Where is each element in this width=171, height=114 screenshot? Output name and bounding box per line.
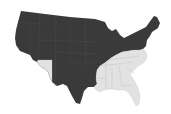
us-map-svg xyxy=(0,0,171,114)
us-map xyxy=(0,0,171,114)
state-arizona xyxy=(37,60,52,82)
